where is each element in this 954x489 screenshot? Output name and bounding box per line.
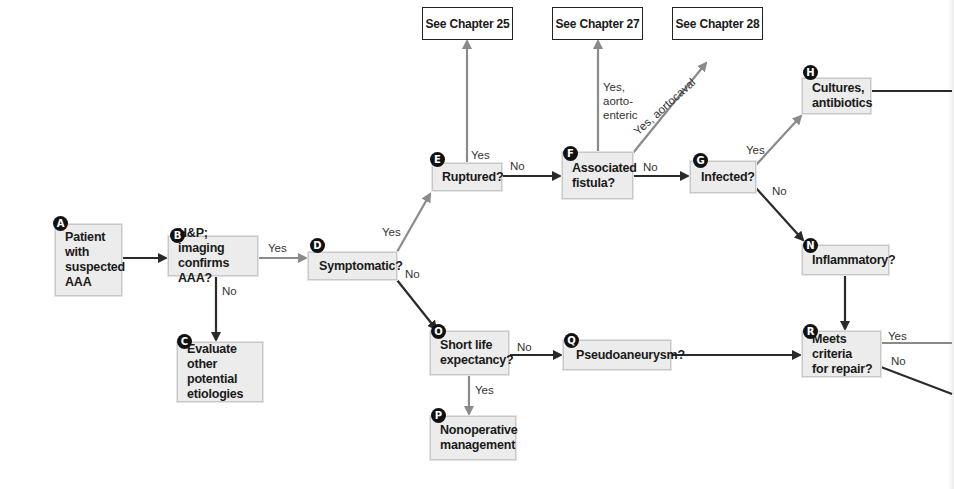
edge-label-f-yes-enteric-1: Yes, [603, 80, 625, 94]
node-label: H&P; imaging confirms AAA? [178, 226, 257, 286]
badge-a-icon: A [53, 216, 68, 231]
node-label: Pseudoaneurysm? [576, 348, 685, 363]
badge-q-icon: Q [564, 333, 579, 348]
edge-label-b-yes: Yes [268, 241, 287, 255]
node-c: Evaluate other potential etiologies [177, 342, 263, 402]
edge-label-g-no: No [772, 184, 787, 198]
edge-g-h [756, 116, 801, 165]
badge-n-icon: N [803, 238, 818, 253]
reference-chapter-28: See Chapter 28 [672, 7, 763, 40]
node-label: Associated fistula? [572, 161, 637, 191]
node-label: Meets criteria for repair? [812, 332, 880, 377]
badge-d-icon: D [310, 238, 325, 253]
badge-p-icon: P [431, 408, 446, 423]
badge-e-icon: E [430, 152, 445, 167]
node-label: Inflammatory? [812, 253, 896, 268]
edge-label-f-no: No [643, 160, 658, 174]
node-e: Ruptured? [432, 163, 502, 191]
node-d: Symptomatic? [308, 252, 397, 280]
node-label: Patient with suspected AAA [65, 230, 125, 290]
node-label: Symptomatic? [319, 259, 403, 274]
edge-label-g-yes: Yes [746, 143, 765, 157]
node-q: Pseudoaneurysm? [563, 340, 671, 370]
reference-label: See Chapter 28 [676, 17, 760, 31]
edge-label-b-no: No [222, 284, 237, 298]
badge-f-icon: F [563, 146, 578, 161]
reference-chapter-25: See Chapter 25 [422, 7, 513, 40]
edge-label-o-no: No [517, 340, 532, 354]
node-a: Patient with suspected AAA [55, 224, 122, 296]
node-label: Evaluate other potential etiologies [187, 342, 262, 402]
edge-label-e-no: No [510, 159, 525, 173]
node-label: Cultures, antibiotics [812, 81, 872, 111]
edge-label-f-yes-enteric-2: aorto- [603, 94, 633, 108]
edge-d-o [397, 280, 436, 329]
edge-label-o-yes: Yes [475, 383, 494, 397]
badge-g-icon: G [693, 153, 708, 168]
node-p: Nonoperative management [430, 416, 516, 460]
badge-o-icon: O [431, 324, 446, 339]
node-b: H&P; imaging confirms AAA? [168, 236, 258, 276]
node-label: Nonoperative management [440, 423, 517, 453]
badge-r-icon: R [803, 324, 818, 339]
reference-chapter-27: See Chapter 27 [552, 7, 643, 40]
edge-label-d-yes: Yes [382, 225, 401, 239]
edge-label-r-yes: Yes [888, 329, 907, 343]
reference-label: See Chapter 27 [556, 17, 640, 31]
node-label: Ruptured? [442, 170, 503, 185]
edge-label-d-no: No [405, 267, 420, 281]
badge-c-icon: C [177, 334, 192, 349]
reference-label: See Chapter 25 [426, 17, 510, 31]
badge-b-icon: B [170, 228, 185, 243]
node-h: Cultures, antibiotics [802, 78, 871, 114]
edge-label-e-yes: Yes [471, 148, 490, 162]
edge-d-e [397, 194, 430, 252]
edge-label-r-no: No [891, 354, 906, 368]
edge-label-f-yes-enteric-3: enteric [603, 108, 638, 122]
edge-r-no-offpage [881, 367, 952, 394]
badge-h-icon: H [803, 65, 818, 80]
node-label: Short life expectancy? [440, 338, 514, 368]
node-label: Infected? [701, 170, 755, 185]
